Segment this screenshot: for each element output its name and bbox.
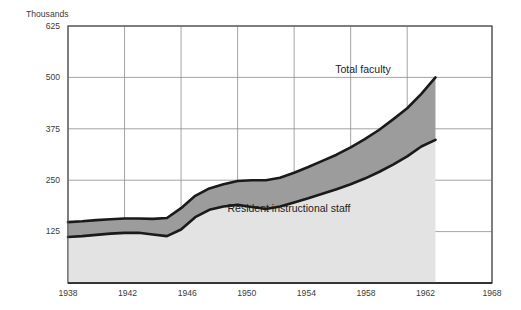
y-tick-label-625: 625: [46, 21, 61, 31]
x-tick-label-1942: 1942: [118, 288, 137, 298]
y-tick-label-375: 375: [46, 124, 61, 134]
x-tick-label-1954: 1954: [297, 288, 316, 298]
y-tick-label-125: 125: [46, 226, 61, 236]
x-tick-label-1968: 1968: [482, 288, 501, 298]
annotation-total-faculty: Total faculty: [335, 63, 391, 75]
area-chart: Thousands 625 500 375 250 125 1938 1942 …: [0, 0, 521, 310]
chart-page: Thousands 625 500 375 250 125 1938 1942 …: [0, 0, 521, 310]
x-tick-label-1946: 1946: [178, 288, 197, 298]
x-tick-label-1950: 1950: [237, 288, 256, 298]
y-axis-unit-caption: Thousands: [26, 9, 69, 19]
annotation-resident-instructional-staff: Resident instructional staff: [228, 202, 351, 214]
x-tick-label-1958: 1958: [356, 288, 375, 298]
x-tick-label-1962: 1962: [416, 288, 435, 298]
x-tick-label-1938: 1938: [58, 288, 77, 298]
chart-svg: Thousands 625 500 375 250 125 1938 1942 …: [0, 0, 521, 310]
y-tick-label-500: 500: [46, 72, 61, 82]
y-tick-label-250: 250: [46, 175, 61, 185]
